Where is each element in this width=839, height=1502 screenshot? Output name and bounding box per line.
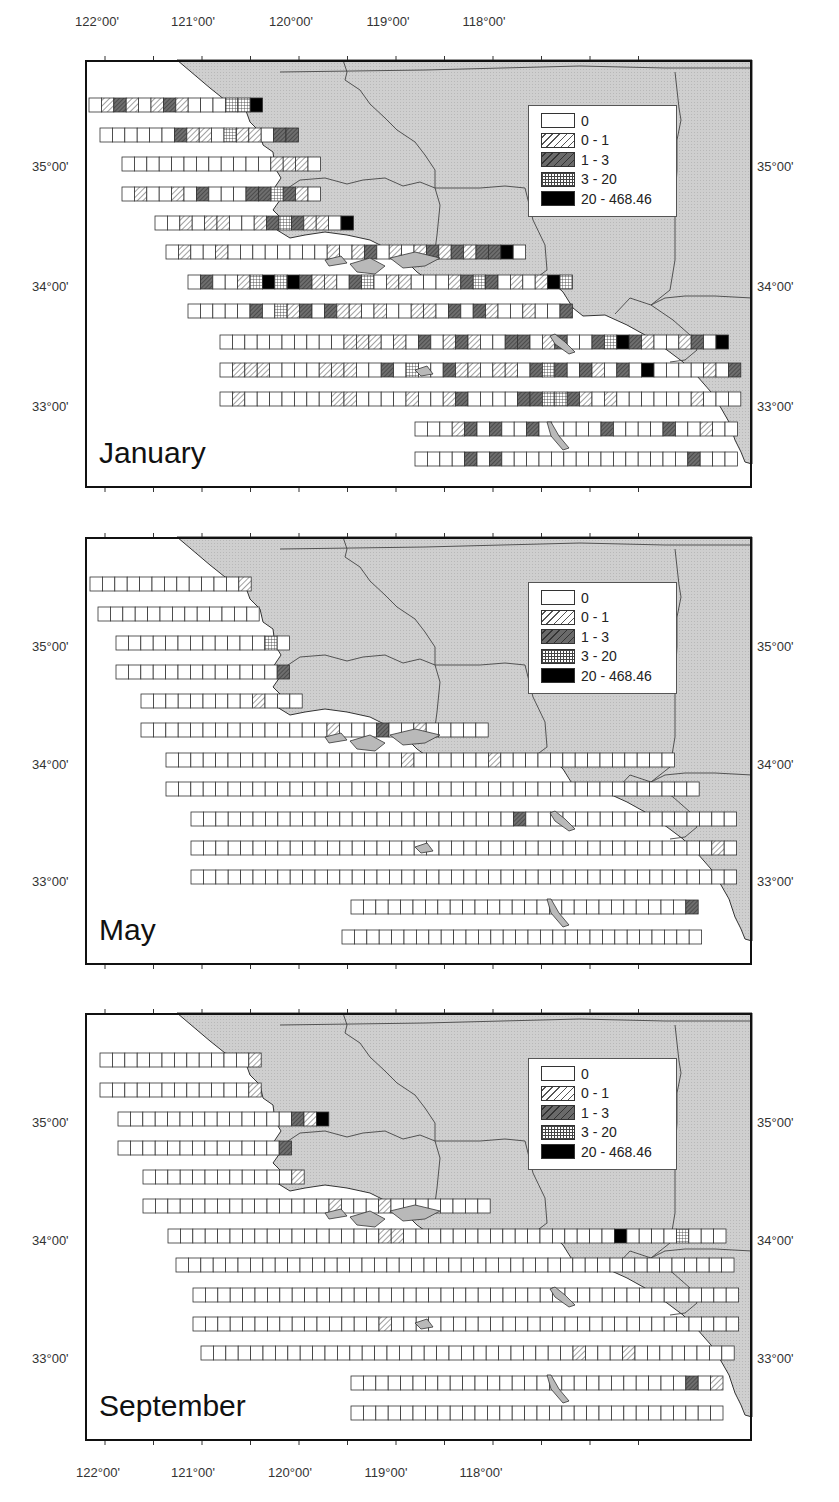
- lat-label-right: 33°00': [757, 874, 794, 889]
- grid-cell: [288, 1346, 300, 1360]
- grid-cell: [614, 1229, 626, 1243]
- grid-cell: [254, 1141, 266, 1155]
- grid-cell: [440, 422, 452, 436]
- grid-cell: [627, 1229, 639, 1243]
- grid-cell: [602, 1229, 614, 1243]
- grid-cell: [535, 275, 547, 289]
- grid-cell: [278, 841, 290, 855]
- grid-cell: [627, 930, 639, 944]
- grid-cell: [623, 1346, 635, 1360]
- grid-cell: [473, 275, 485, 289]
- grid-cell: [187, 1053, 199, 1067]
- grid-cell: [153, 694, 165, 708]
- grid-cell: [615, 1288, 627, 1302]
- grid-cell: [449, 1258, 461, 1272]
- grid-cell: [538, 782, 550, 796]
- grid-cell: [377, 723, 389, 737]
- grid-cell: [203, 245, 215, 259]
- grid-cell: [366, 1229, 378, 1243]
- grid-row: [201, 1346, 734, 1360]
- grid-cell: [252, 636, 264, 650]
- grid-cell: [362, 1346, 374, 1360]
- grid-cell: [626, 452, 638, 466]
- grid-cell: [394, 363, 406, 377]
- grid-cell: [538, 753, 550, 767]
- grid-cell: [615, 1317, 627, 1331]
- grid-cell: [565, 930, 577, 944]
- grid-cell: [312, 304, 324, 318]
- lat-label-right: 34°00': [757, 279, 794, 294]
- grid-cell: [280, 1317, 292, 1331]
- grid-cell: [350, 1346, 362, 1360]
- grid-cell: [292, 1170, 304, 1184]
- grid-cell: [474, 1258, 486, 1272]
- lat-label-right: 33°00': [757, 1351, 794, 1366]
- grid-cell: [151, 98, 163, 112]
- grid-cell: [613, 452, 625, 466]
- grid-cell: [498, 304, 510, 318]
- grid-cell: [128, 636, 140, 650]
- grid-cell: [365, 841, 377, 855]
- grid-cell: [704, 363, 716, 377]
- grid-cell: [391, 1288, 403, 1302]
- grid-cell: [624, 900, 636, 914]
- grid-cell: [302, 753, 314, 767]
- grid-cell: [168, 1141, 180, 1155]
- grid-cell: [611, 900, 623, 914]
- grid-cell: [362, 275, 374, 289]
- grid-cell: [220, 335, 232, 349]
- grid-cell: [203, 782, 215, 796]
- grid-cell: [137, 128, 149, 142]
- grid-cell: [677, 1317, 689, 1331]
- grid-cell: [270, 392, 282, 406]
- grid-cell: [486, 304, 498, 318]
- grid-cell: [526, 753, 538, 767]
- grid-cell: [661, 1376, 673, 1390]
- grid-cell: [688, 422, 700, 436]
- grid-cell: [440, 452, 452, 466]
- grid-cell: [612, 753, 624, 767]
- grid-cell: [663, 452, 675, 466]
- grid-cell: [654, 335, 666, 349]
- legend-swatch-icon: [541, 590, 575, 605]
- grid-cell: [263, 1346, 275, 1360]
- grid-cell: [203, 841, 215, 855]
- grid-cell: [464, 753, 476, 767]
- grid-cell: [515, 1229, 527, 1243]
- grid-cell: [679, 363, 691, 377]
- grid-cell: [215, 636, 227, 650]
- legend-item: 1 - 3: [541, 151, 609, 168]
- grid-cell: [629, 335, 641, 349]
- grid-cell: [160, 607, 172, 621]
- grid-cell: [687, 782, 699, 796]
- grid-cell: [642, 335, 654, 349]
- legend-swatch-icon: [541, 1144, 575, 1159]
- grid-cell: [192, 1141, 204, 1155]
- grid-cell: [193, 1317, 205, 1331]
- grid-cell: [404, 1288, 416, 1302]
- grid-cell: [477, 422, 489, 436]
- grid-cell: [687, 812, 699, 826]
- legend-item: 0: [541, 1065, 589, 1082]
- grid-cell: [629, 392, 641, 406]
- grid-cell: [673, 1406, 685, 1420]
- grid-cell: [675, 452, 687, 466]
- legend-label: 1 - 3: [581, 1105, 609, 1121]
- grid-cell: [548, 1258, 560, 1272]
- grid-cell: [564, 452, 576, 466]
- grid-cell: [526, 870, 538, 884]
- grid-cell: [575, 812, 587, 826]
- grid-cell: [315, 812, 327, 826]
- grid-cell: [476, 245, 488, 259]
- grid-cell: [162, 128, 174, 142]
- grid-cell: [637, 782, 649, 796]
- grid-cell: [453, 1229, 465, 1243]
- grid-cell: [228, 753, 240, 767]
- grid-cell: [637, 812, 649, 826]
- grid-cell: [654, 363, 666, 377]
- grid-cell: [561, 1346, 573, 1360]
- grid-cell: [240, 723, 252, 737]
- grid-cell: [677, 930, 689, 944]
- grid-cell: [166, 245, 178, 259]
- grid-cell: [617, 335, 629, 349]
